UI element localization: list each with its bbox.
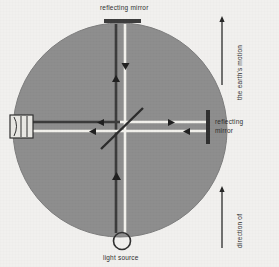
label-earth-motion: the earth's motion — [236, 45, 243, 100]
label-right-mirror-line2: mirror — [215, 127, 233, 135]
label-light-source: light source — [103, 254, 139, 262]
diagram-canvas: reflecting mirror reflecting mirror the … — [0, 0, 279, 267]
label-right-mirror-line1: reflecting — [215, 118, 243, 126]
top-reflecting-mirror — [104, 19, 141, 23]
label-direction-of: direction of — [236, 214, 243, 248]
label-top-mirror: reflecting mirror — [100, 4, 149, 12]
right-reflecting-mirror — [206, 110, 210, 144]
